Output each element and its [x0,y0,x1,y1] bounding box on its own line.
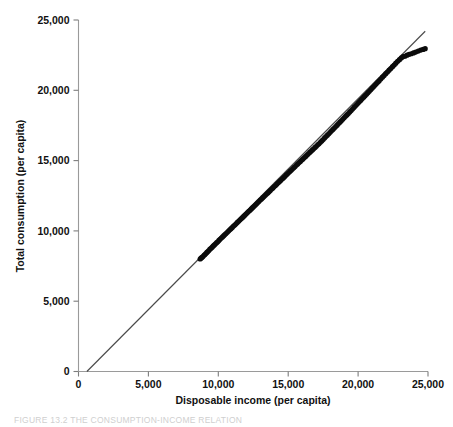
x-tick-label: 0 [76,378,82,390]
chart-background [0,0,453,427]
x-tick-label: 10,000 [202,378,234,390]
consumption-income-scatter-chart: 05,00010,00015,00020,00025,000 05,00010,… [0,0,453,427]
x-axis-title: Disposable income (per capita) [175,394,330,406]
figure-container: 05,00010,00015,00020,00025,000 05,00010,… [0,0,453,427]
y-axis-title: Total consumption (per capita) [14,120,26,273]
x-tick-label: 25,000 [412,378,444,390]
y-tick-label: 15,000 [37,154,69,166]
x-tick-label: 5,000 [135,378,161,390]
y-tick-label: 5,000 [43,295,69,307]
data-point [423,46,428,51]
y-tick-label: 0 [64,365,70,377]
y-tick-label: 10,000 [37,225,69,237]
figure-caption: FIGURE 13.2 THE CONSUMPTION-INCOME RELAT… [14,413,444,427]
y-tick-label: 20,000 [37,84,69,96]
x-tick-label: 15,000 [272,378,304,390]
x-tick-label: 20,000 [342,378,374,390]
y-tick-label: 25,000 [37,14,69,26]
